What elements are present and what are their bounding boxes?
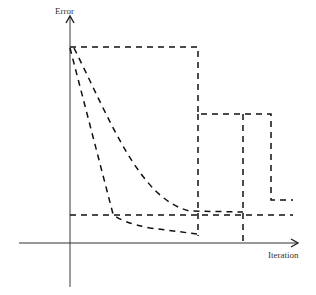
y-axis-label: Error bbox=[55, 6, 74, 16]
x-axis-label: Iteration bbox=[268, 250, 299, 260]
error-iteration-diagram: Error Iteration bbox=[0, 0, 316, 295]
slow-decay-curve bbox=[74, 48, 243, 212]
